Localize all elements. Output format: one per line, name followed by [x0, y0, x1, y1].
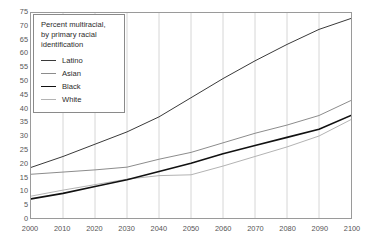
x-axis-tick-label: 2090	[312, 225, 328, 232]
y-axis-tick-label: 10	[2, 188, 28, 195]
x-axis-tick-label: 2010	[54, 225, 70, 232]
x-axis-tick-label: 2070	[247, 225, 263, 232]
legend-entries: LatinoAsianBlackWhite	[41, 54, 118, 106]
x-axis-tick-label: 2040	[151, 225, 167, 232]
y-axis: 757065605550454035302520151050	[0, 0, 28, 244]
x-axis: 2000201020202030204020502060207020802090…	[0, 225, 367, 239]
y-axis-tick-label: 25	[2, 146, 28, 153]
legend-item-label: White	[62, 96, 81, 104]
x-axis-tick-label: 2050	[183, 225, 199, 232]
x-axis-tick-label: 2100	[344, 225, 360, 232]
y-axis-tick-label: 55	[2, 63, 28, 70]
chart-container: 757065605550454035302520151050 200020102…	[0, 0, 367, 244]
legend-item-asian: Asian	[41, 67, 118, 80]
y-axis-tick-label: 20	[2, 160, 28, 167]
legend-item-label: Asian	[62, 70, 81, 78]
x-axis-tick-label: 2000	[22, 225, 38, 232]
legend-item-latino: Latino	[41, 54, 118, 67]
y-axis-tick-label: 40	[2, 105, 28, 112]
y-axis-tick-label: 5	[2, 201, 28, 208]
y-axis-tick-label: 45	[2, 91, 28, 98]
x-axis-tick-label: 2060	[215, 225, 231, 232]
legend-item-white: White	[41, 93, 118, 106]
y-axis-tick-label: 75	[2, 8, 28, 15]
legend-line-swatch-icon	[41, 86, 56, 87]
legend-line-swatch-icon	[41, 60, 56, 61]
x-axis-tick-label: 2080	[279, 225, 295, 232]
y-axis-tick-label: 65	[2, 36, 28, 43]
legend-item-label: Latino	[62, 57, 83, 65]
y-axis-tick-label: 15	[2, 174, 28, 181]
y-axis-tick-label: 50	[2, 77, 28, 84]
y-axis-tick-label: 60	[2, 50, 28, 57]
y-axis-tick-label: 70	[2, 22, 28, 29]
y-axis-tick-label: 30	[2, 132, 28, 139]
legend-item-label: Black	[62, 83, 81, 91]
y-axis-tick-label: 0	[2, 215, 28, 222]
chart-legend: Percent multiracial, by primary racial i…	[33, 14, 125, 113]
legend-item-black: Black	[41, 80, 118, 93]
legend-line-swatch-icon	[41, 73, 56, 74]
legend-title: Percent multiracial, by primary racial i…	[41, 20, 118, 50]
x-axis-tick-label: 2020	[86, 225, 102, 232]
y-axis-tick-label: 35	[2, 119, 28, 126]
x-axis-tick-label: 2030	[118, 225, 134, 232]
legend-line-swatch-icon	[41, 99, 56, 100]
